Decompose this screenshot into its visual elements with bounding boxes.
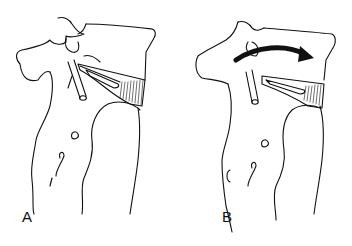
rotation-arrow-icon bbox=[236, 46, 314, 62]
vertebra-illustration-b bbox=[176, 0, 352, 246]
panel-label-b: B bbox=[222, 209, 232, 224]
panel-a: A bbox=[0, 0, 176, 246]
panel-b: B bbox=[176, 0, 352, 246]
panel-label-a: A bbox=[22, 209, 32, 224]
